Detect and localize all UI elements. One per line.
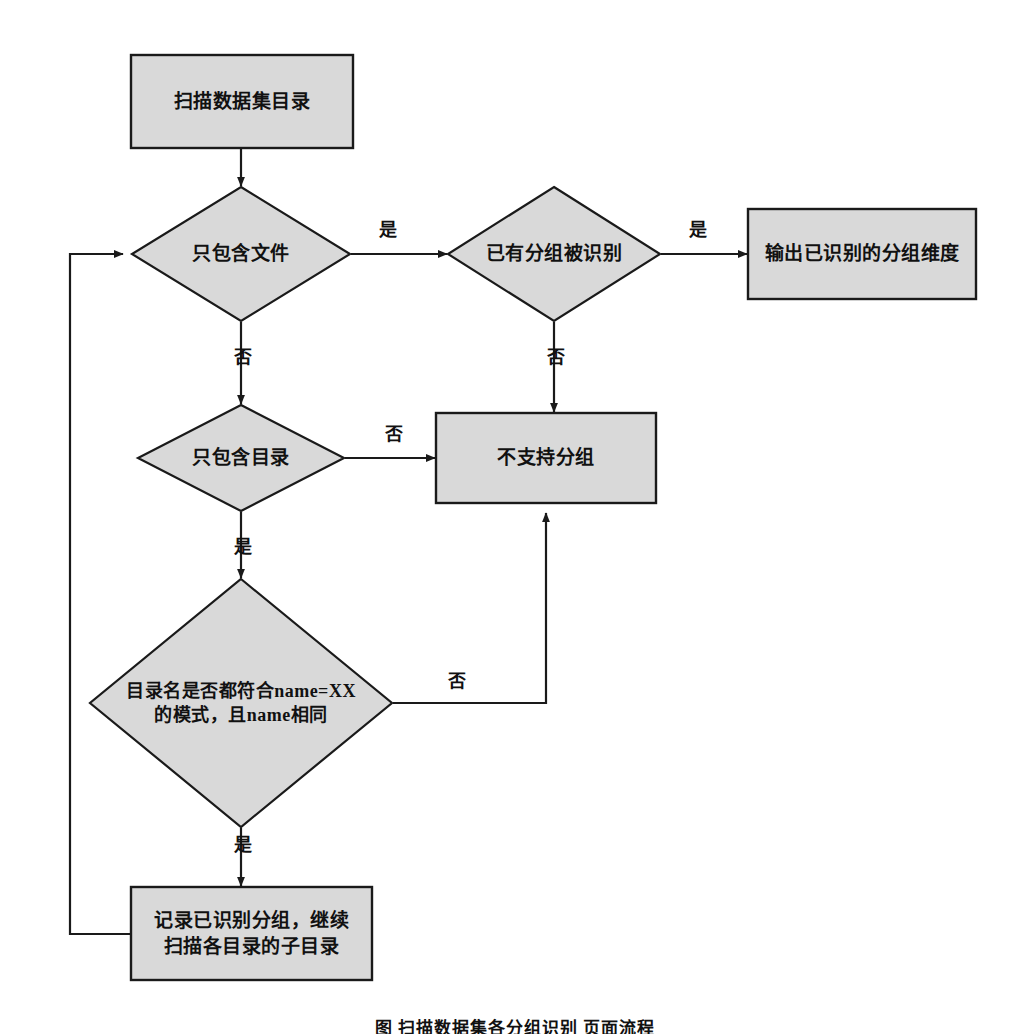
node-name-pattern-check <box>90 579 392 827</box>
node-record-group-continue <box>131 887 372 980</box>
edge-label-namecheck-yes: 是 <box>223 836 263 854</box>
node-only-files <box>132 187 350 321</box>
node-only-dirs <box>138 405 344 511</box>
edge-label-onlyfiles-no: 否 <box>223 348 263 366</box>
flowchart-page: 扫描数据集目录 只包含文件 已有分组被识别 输出已识别的分组维度 只包含目录 不… <box>0 0 1030 1034</box>
edge-label-grouprecognized-yes: 是 <box>678 221 718 239</box>
node-scan-dataset-dir <box>131 55 353 148</box>
node-output-group-dims <box>748 209 976 299</box>
edge-label-onlyfiles-yes: 是 <box>368 221 408 239</box>
edge-label-onlydirs-yes: 是 <box>223 538 263 556</box>
node-no-group-support <box>436 413 656 503</box>
edge-label-onlydirs-no: 否 <box>374 425 414 443</box>
figure-caption: 图 扫描数据集各分组识别 页面流程 <box>0 1014 1030 1034</box>
edge-label-namecheck-no: 否 <box>437 672 477 690</box>
flowchart-canvas <box>0 0 1030 1034</box>
edge-record-loopback-to-onlyfiles <box>70 254 130 934</box>
node-group-recognized <box>448 187 660 321</box>
edge-label-grouprecognized-no: 否 <box>536 348 576 366</box>
